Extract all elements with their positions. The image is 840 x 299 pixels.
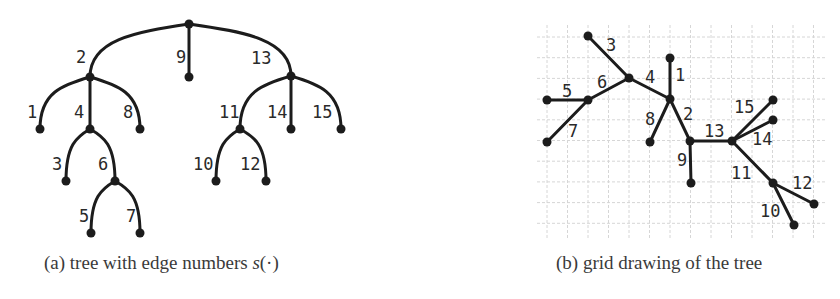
tree-node <box>687 179 696 188</box>
edge-number-label: 13 <box>251 48 271 68</box>
tree-node <box>728 137 737 146</box>
tree-node <box>212 177 221 186</box>
edge-number-label: 11 <box>731 163 751 183</box>
edge-number-label: 14 <box>267 102 287 122</box>
edge-number-label: 13 <box>704 121 724 141</box>
grid-background <box>537 25 825 240</box>
edge-number-label: 10 <box>760 201 780 221</box>
tree-edge <box>189 24 291 76</box>
tree-b-edge-labels: 314657829131514111210 <box>562 35 812 221</box>
edge-number-label: 3 <box>52 154 62 174</box>
edge-number-label: 14 <box>752 129 772 149</box>
caption-a-math: s <box>252 252 259 273</box>
tree-edge <box>91 181 115 233</box>
edge-number-label: 15 <box>734 97 754 117</box>
tree-b-nodes <box>543 32 819 230</box>
tree-node <box>584 96 593 105</box>
edge-number-label: 12 <box>792 173 812 193</box>
edge-number-label: 1 <box>27 102 37 122</box>
tree-node <box>236 125 245 134</box>
tree-node <box>543 138 552 147</box>
tree-a-edge-labels: 291314836571114151012 <box>27 47 332 226</box>
edge-number-label: 4 <box>74 102 84 122</box>
tree-node <box>136 125 145 134</box>
edge-number-label: 9 <box>176 47 186 67</box>
tree-node <box>287 72 296 81</box>
tree-edge <box>216 129 240 181</box>
edge-number-label: 6 <box>597 72 607 92</box>
edge-number-label: 2 <box>683 104 693 124</box>
caption-a-text: (a) tree with edge numbers <box>44 252 252 273</box>
tree-node <box>769 179 778 188</box>
tree-node <box>810 200 819 209</box>
edge-number-label: 3 <box>606 35 616 55</box>
edge-number-label: 4 <box>645 67 655 87</box>
caption-b: (b) grid drawing of the tree <box>556 252 762 274</box>
edge-number-label: 8 <box>645 109 655 129</box>
tree-node <box>185 20 194 29</box>
edge-number-label: 11 <box>219 102 239 122</box>
tree-node <box>646 138 655 147</box>
tree-diagram-a: 291314836571114151012 <box>27 20 346 238</box>
edge-number-label: 1 <box>675 65 685 85</box>
edge-number-label: 7 <box>568 121 578 141</box>
tree-node <box>769 116 778 125</box>
tree-node <box>62 177 71 186</box>
edge-number-label: 15 <box>312 102 332 122</box>
edge-number-label: 12 <box>240 154 260 174</box>
tree-node <box>686 137 695 146</box>
tree-node <box>625 74 634 83</box>
edge-number-label: 2 <box>76 47 86 67</box>
tree-edge <box>66 129 90 181</box>
tree-node <box>86 73 95 82</box>
tree-node <box>790 221 799 230</box>
tree-node <box>584 32 593 41</box>
tree-node <box>136 229 145 238</box>
caption-a-suffix: (·) <box>260 252 279 273</box>
tree-node <box>543 96 552 105</box>
edge-number-label: 8 <box>123 102 133 122</box>
edge-number-label: 9 <box>677 150 687 170</box>
edge-number-label: 5 <box>79 206 89 226</box>
tree-node <box>185 73 194 82</box>
caption-a: (a) tree with edge numbers s(·) <box>44 252 279 274</box>
tree-node <box>111 177 120 186</box>
tree-node <box>666 95 675 104</box>
tree-edge <box>690 141 691 183</box>
tree-node <box>36 125 45 134</box>
tree-node <box>666 54 675 63</box>
edge-number-label: 5 <box>562 81 572 101</box>
tree-node <box>86 125 95 134</box>
tree-node <box>287 125 296 134</box>
grid-drawing-b: 314657829131514111210 <box>543 32 819 230</box>
tree-node <box>87 229 96 238</box>
edge-number-label: 6 <box>98 154 108 174</box>
tree-node <box>262 177 271 186</box>
tree-edge <box>90 24 189 77</box>
edge-number-label: 7 <box>126 206 136 226</box>
edge-number-label: 10 <box>193 154 213 174</box>
tree-node <box>769 96 778 105</box>
tree-node <box>337 125 346 134</box>
